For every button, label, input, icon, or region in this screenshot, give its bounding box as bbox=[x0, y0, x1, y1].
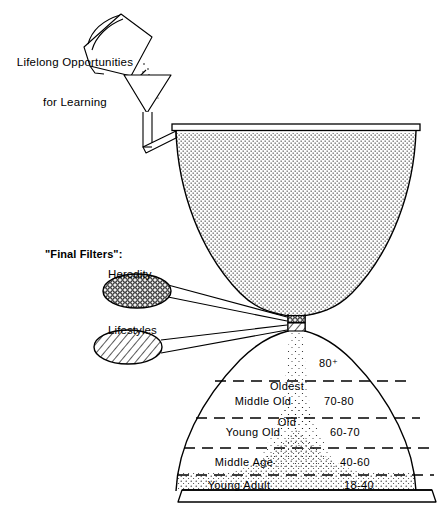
age-band-name-oldest-old-line1: Oldest bbox=[256, 380, 318, 392]
age-band-range-middle-age: 40-60 bbox=[340, 456, 370, 468]
hourglass-top-rim bbox=[172, 124, 420, 131]
heredity-label: Heredity bbox=[108, 268, 152, 281]
age-band-range-oldest-old: 80⁺ bbox=[319, 357, 338, 370]
funnel-stem bbox=[143, 112, 152, 147]
watering-can-label-line1: Lifelong Opportunities bbox=[6, 56, 144, 69]
filter-band-lifestyles bbox=[288, 323, 305, 331]
leader-lifestyles-bottom bbox=[161, 330, 287, 353]
final-filters-heading: "Final Filters": bbox=[45, 248, 122, 261]
age-band-range-young-adult: 18-40 bbox=[344, 479, 374, 491]
upper-bulb-fill bbox=[170, 133, 422, 323]
hourglass-neck bbox=[288, 314, 305, 332]
hourglass-upper-bulb bbox=[170, 124, 422, 323]
watering-can-label-line2: for Learning bbox=[6, 96, 144, 109]
age-band-range-young-old: 60-70 bbox=[330, 426, 360, 438]
age-band-name-middle-age: Middle Age bbox=[196, 456, 292, 468]
age-band-name-young-adult: Young Adult bbox=[190, 479, 288, 491]
hourglass-base bbox=[178, 490, 436, 502]
age-band-name-young-old: Young Old bbox=[208, 426, 298, 438]
age-band-name-middle-old: Middle Old bbox=[218, 395, 308, 407]
watering-can-label: Lifelong Opportunities for Learning bbox=[6, 30, 144, 123]
filter-band-heredity bbox=[288, 316, 305, 323]
lifestyles-label: Lifestyles bbox=[108, 324, 157, 337]
leader-lifestyles-top bbox=[161, 325, 287, 340]
age-band-range-middle-old: 70-80 bbox=[324, 395, 354, 407]
